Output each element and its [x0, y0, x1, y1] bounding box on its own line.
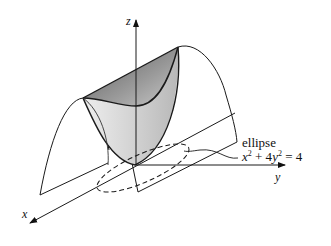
x-axis-label: x	[22, 208, 27, 220]
shaded-solid	[83, 47, 179, 165]
diagram: z y x ellipse x2 + 4y2 = 4	[0, 0, 331, 246]
y-axis-label: y	[275, 171, 280, 183]
ellipse-label: ellipse	[242, 136, 276, 149]
z-axis-label: z	[126, 15, 131, 27]
diagram-svg	[0, 0, 331, 246]
leader-line	[184, 150, 238, 158]
ellipse-equation: x2 + 4y2 = 4	[242, 150, 302, 163]
eq-rhs: = 4	[282, 149, 302, 164]
eq-plus: + 4	[252, 149, 272, 164]
